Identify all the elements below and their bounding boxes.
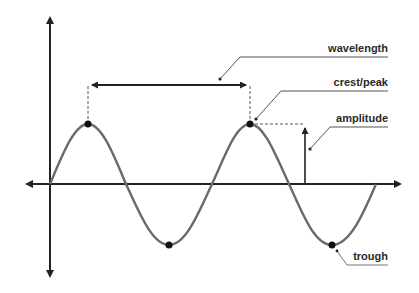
crest-point-1 — [85, 121, 92, 128]
trough-callout: trough — [336, 250, 389, 265]
amplitude-indicator — [250, 124, 305, 184]
crest-label: crest/peak — [334, 76, 389, 88]
trough-label: trough — [353, 250, 388, 262]
amplitude-callout: amplitude — [308, 112, 388, 151]
wave-diagram: wavelength crest/peak amplitude trough — [0, 0, 419, 293]
trough-point-1 — [166, 242, 173, 249]
wavelength-label: wavelength — [327, 42, 388, 54]
crest-point-2 — [247, 121, 254, 128]
amplitude-label: amplitude — [336, 112, 388, 124]
wavelength-indicator — [88, 85, 250, 124]
wavelength-callout: wavelength — [218, 42, 388, 81]
trough-point-2 — [329, 242, 336, 249]
